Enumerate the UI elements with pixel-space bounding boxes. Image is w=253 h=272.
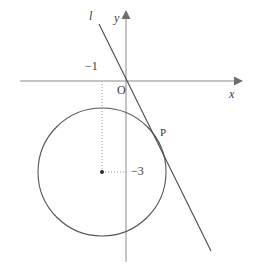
point-p-label: P xyxy=(160,127,166,138)
figure-canvas xyxy=(0,0,253,272)
x-axis-label: x xyxy=(229,88,234,100)
tick-label-x-minus-1: −1 xyxy=(85,60,98,72)
origin-label: O xyxy=(117,84,126,96)
line-l-label: l xyxy=(89,10,92,22)
tick-label-y-minus-3: −3 xyxy=(131,165,144,177)
geometry-figure: y x O −1 −3 l P xyxy=(0,0,253,272)
circle-center-dot xyxy=(100,170,104,174)
x-axis-arrowhead xyxy=(234,77,243,86)
y-axis-label: y xyxy=(114,12,119,24)
y-axis-arrowhead xyxy=(122,10,131,19)
line-l xyxy=(99,24,211,251)
